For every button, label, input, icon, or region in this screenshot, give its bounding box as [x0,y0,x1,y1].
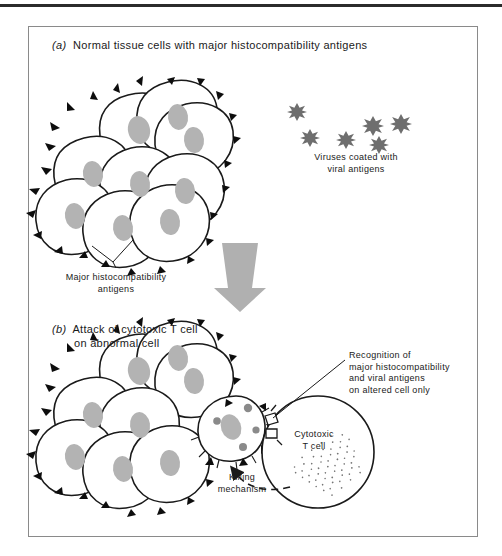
panel-a-title: (a) Normal tissue cells with major histo… [52,38,367,52]
panel-a-index: (a) [52,39,66,51]
panel-a-title-text: Normal tissue cells with major histocomp… [73,39,367,51]
t-cell-caption-line1: Cytotoxic [294,429,334,439]
panel-b-title: (b) Attack of cytotoxic T cellon abnorma… [52,322,198,350]
panel-b-title-line2: on abnormal cell [74,336,198,350]
virus-particles [287,103,412,154]
recognition-line3: and viral antigens [349,373,425,383]
recognition-caption: Recognition ofmajor histocompatibilityan… [349,350,469,396]
recognition-line2: major histocompatibility [349,362,450,372]
t-cell-caption: CytotoxicT cell [283,429,345,452]
virus-caption-line2: viral antigens [327,164,384,174]
mhc-antigen-caption: Major histocompatibilityantigens [56,272,176,295]
virus-caption-line1: Viruses coated with [314,152,398,162]
mhc-caption-line2: antigens [98,284,134,294]
downward-transition-arrow [214,243,266,312]
virus-caption: Viruses coated withviral antigens [306,152,406,175]
recognition-line4: on altered cell only [349,385,430,395]
panel-b-index: (b) [52,323,66,335]
panel-b-title-line1: Attack of cytotoxic T cell [72,323,197,335]
recognition-line1: Recognition of [349,350,411,360]
mhc-caption-line1: Major histocompatibility [66,272,167,282]
killing-caption-line2: mechanism [218,484,267,494]
t-cell-caption-line2: T cell [302,441,325,451]
killing-caption-line1: Killing [229,472,255,482]
killing-mechanism-caption: Killingmechanism [209,472,275,495]
